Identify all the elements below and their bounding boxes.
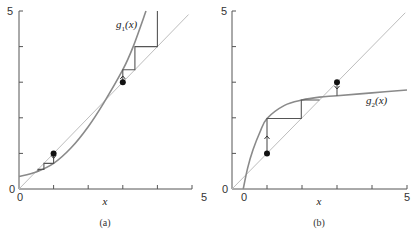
start-point	[264, 150, 270, 156]
x-axis-label: x	[316, 195, 322, 207]
x-tick-5: 5	[201, 191, 207, 203]
figure: 5 0 0 5 x (a) g1(x) 5 0 0 5 x (b) g2(x)	[0, 0, 416, 236]
series-label-g1: g1(x)	[116, 18, 138, 33]
start-point	[334, 79, 340, 85]
series-label-g2: g2(x)	[366, 94, 388, 109]
panel-b: 5 0 0 5 x (b) g2(x)	[221, 5, 410, 229]
x-tick-5: 5	[404, 191, 410, 203]
plot-a	[19, 11, 189, 189]
panel-label-a: (a)	[99, 217, 110, 229]
panel-label-b: (b)	[313, 217, 325, 229]
y-tick-0: 0	[222, 183, 228, 195]
y-tick-0: 0	[9, 183, 15, 195]
y-tick-5: 5	[7, 5, 13, 17]
x-axis-label: x	[102, 195, 108, 207]
start-point	[120, 79, 126, 85]
panel-a: 5 0 0 5 x (a) g1(x)	[7, 5, 207, 229]
function-curve	[19, 11, 146, 177]
x-tick-0: 0	[17, 191, 23, 203]
x-tick-0: 0	[241, 191, 247, 203]
start-point	[51, 150, 57, 156]
y-tick-5: 5	[221, 5, 227, 17]
